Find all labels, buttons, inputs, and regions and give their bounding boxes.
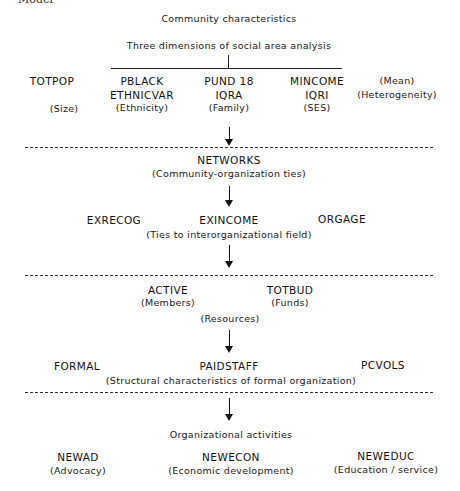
- resources-label: (Resources): [200, 314, 259, 324]
- var-formal: FORMAL: [54, 361, 100, 372]
- var-exrecog: EXRECOG: [87, 215, 141, 226]
- var-iqri: IQRI: [305, 90, 328, 101]
- dashed-divider: [25, 147, 433, 148]
- structural-label: (Structural characteristics of formal or…: [106, 376, 356, 386]
- activities-title: Organizational activities: [170, 430, 293, 440]
- var-ethnicvar: ETHNICVAR: [110, 90, 174, 101]
- label-size: (Size): [50, 104, 79, 114]
- label-family: (Family): [209, 103, 249, 113]
- var-totpop: TOTPOP: [30, 76, 74, 87]
- var-iqra: IQRA: [215, 90, 242, 101]
- label-funds: (Funds): [271, 298, 308, 308]
- var-neweduc: NEWEDUC: [357, 451, 414, 462]
- label-education-service: (Education / service): [334, 465, 438, 475]
- arrow-down-icon: [224, 245, 234, 269]
- ties-label: (Ties to interorganizational field): [146, 230, 311, 240]
- label-heterogeneity: (Heterogeneity): [357, 90, 437, 100]
- networks-label: (Community-organization ties): [152, 169, 306, 179]
- arrow-down-icon: [224, 398, 234, 422]
- arrow-down-icon: [224, 127, 234, 147]
- label-mean: (Mean): [379, 76, 414, 86]
- arrow-down-icon: [224, 186, 234, 208]
- label-members: (Members): [141, 298, 195, 308]
- diagram-subtitle: Three dimensions of social area analysis: [127, 41, 331, 51]
- dashed-divider: [25, 392, 433, 393]
- var-orgage: ORGAGE: [318, 214, 366, 225]
- networks-title: NETWORKS: [197, 155, 261, 166]
- var-paidstaff: PAIDSTAFF: [199, 361, 258, 372]
- var-pund18: PUND 18: [204, 76, 253, 87]
- dashed-divider: [25, 275, 433, 276]
- var-exincome: EXINCOME: [199, 215, 258, 226]
- var-pblack: PBLACK: [120, 76, 163, 87]
- var-active: ACTIVE: [148, 285, 188, 296]
- var-mincome: MINCOME: [290, 76, 344, 87]
- bracket-stem: [228, 55, 229, 68]
- label-ses: (SES): [304, 103, 331, 113]
- cut-off-heading: Model: [18, 0, 53, 6]
- var-newecon: NEWECON: [202, 452, 260, 463]
- label-advocacy: (Advocacy): [50, 466, 106, 476]
- var-totbud: TOTBUD: [267, 285, 313, 296]
- arrow-down-icon: [224, 330, 234, 354]
- diagram-title: Community characteristics: [161, 14, 296, 24]
- label-economic-development: (Economic development): [168, 466, 294, 476]
- var-newad: NEWAD: [57, 452, 99, 463]
- var-pcvols: PCVOLS: [361, 360, 405, 371]
- bracket-bar: [111, 68, 342, 69]
- label-ethnicity: (Ethnicity): [116, 103, 168, 113]
